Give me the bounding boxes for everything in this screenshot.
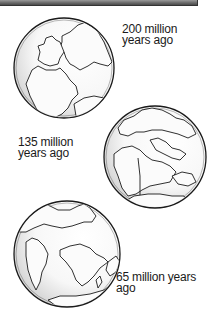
globe-135-million xyxy=(104,106,206,210)
label-65-line2: ago xyxy=(116,283,196,294)
label-200-line2: years ago xyxy=(122,35,177,46)
globe-65-million xyxy=(14,201,120,308)
label-135-million-years: 135 million years ago xyxy=(18,137,73,159)
label-65-million-years: 65 million years ago xyxy=(116,272,196,294)
label-135-line2: years ago xyxy=(18,148,73,159)
label-200-million-years: 200 million years ago xyxy=(122,24,177,46)
globe-200-million xyxy=(14,18,114,118)
